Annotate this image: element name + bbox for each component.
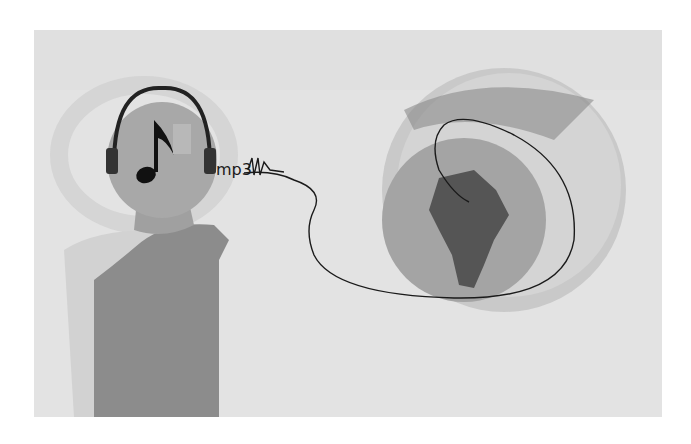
illustration-canvas: mp3 (34, 30, 662, 417)
mp3-label: mp3 (216, 160, 252, 179)
illustration-svg (34, 30, 662, 417)
figure-head (107, 102, 217, 218)
